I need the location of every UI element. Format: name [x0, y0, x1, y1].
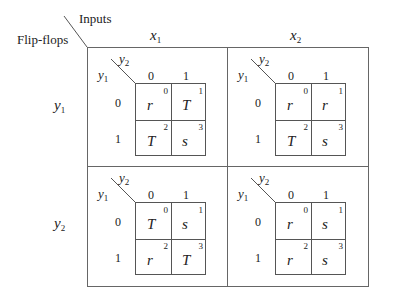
kmap-col-0: 0 [288, 188, 294, 203]
kmap-row-0: 0 [115, 215, 121, 230]
column-header-x2: x2 [290, 28, 301, 45]
kmap-y2-x1: y2 y1 0 1 0 1 T0 s1 r2 T3 [87, 166, 227, 286]
kmap-row-var: y1 [238, 186, 248, 203]
kmap-row-0: 0 [115, 96, 121, 111]
column-header-x1: x1 [150, 28, 161, 45]
kmap-cell: r1 [311, 84, 346, 120]
kmap-cell: T3 [171, 239, 206, 275]
kmap-row-0: 0 [255, 96, 261, 111]
kmap-grid: r0 r1 T2 s3 [275, 83, 346, 156]
kmap-cell: s3 [311, 239, 346, 275]
kmap-col-1: 1 [323, 69, 329, 84]
row-header-y1: y1 [54, 98, 65, 115]
kmap-cell: T0 [136, 203, 171, 239]
kmap-row-1: 1 [255, 132, 261, 147]
corner-col-label: Inputs [79, 12, 112, 25]
kmap-col-1: 1 [183, 188, 189, 203]
kmap-y1-x2: y2 y1 0 1 0 1 r0 r1 T2 s3 [227, 47, 367, 167]
kmap-row-var: y1 [98, 67, 108, 84]
corner-row-label: Flip-flops [17, 33, 68, 46]
kmap-y1-x1: y2 y1 0 1 0 1 r0 T1 T2 s3 [87, 47, 227, 167]
kmap-cell: T1 [171, 84, 206, 120]
kmap-cell: s1 [171, 203, 206, 239]
kmap-col-var: y2 [259, 51, 269, 68]
kmap-cell: s3 [311, 120, 346, 156]
kmap-row-1: 1 [255, 251, 261, 266]
kmap-row-1: 1 [115, 251, 121, 266]
kmap-cell: s1 [311, 203, 346, 239]
kmap-cell: r2 [276, 239, 311, 275]
kmap-col-1: 1 [183, 69, 189, 84]
kmap-col-var: y2 [119, 51, 129, 68]
kmap-cell: s3 [171, 120, 206, 156]
kmap-cell: T2 [136, 120, 171, 156]
kmap-cell: T2 [276, 120, 311, 156]
outer-grid-bottom [87, 286, 369, 287]
kmap-col-var: y2 [259, 170, 269, 187]
kmap-cell: r0 [276, 203, 311, 239]
kmap-col-var: y2 [119, 170, 129, 187]
kmap-grid: r0 T1 T2 s3 [135, 83, 206, 156]
outer-grid-right [368, 47, 369, 287]
kmap-col-0: 0 [148, 188, 154, 203]
kmap-y2-x2: y2 y1 0 1 0 1 r0 s1 r2 s3 [227, 166, 367, 286]
kmap-col-1: 1 [323, 188, 329, 203]
kmap-cell: r0 [276, 84, 311, 120]
kmap-grid: r0 s1 r2 s3 [275, 202, 346, 275]
kmap-col-0: 0 [148, 69, 154, 84]
kmap-row-1: 1 [115, 132, 121, 147]
kmap-row-var: y1 [98, 186, 108, 203]
kmap-col-0: 0 [288, 69, 294, 84]
kmap-cell: r0 [136, 84, 171, 120]
row-header-y2: y2 [54, 216, 65, 233]
kmap-cell: r2 [136, 239, 171, 275]
kmap-row-var: y1 [238, 67, 248, 84]
kmap-row-0: 0 [255, 215, 261, 230]
kmap-grid: T0 s1 r2 T3 [135, 202, 206, 275]
